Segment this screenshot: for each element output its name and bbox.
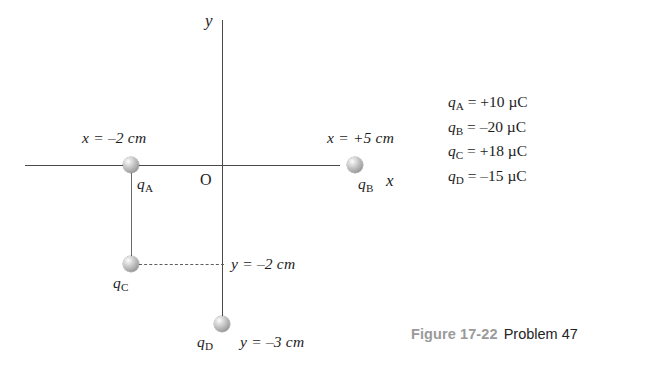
charge-sphere-qc	[123, 256, 139, 272]
figure-problem-label: Problem 47	[504, 326, 578, 342]
legend-row-qd: qD = –15 µC	[448, 166, 528, 191]
legend-qa-symbol: q	[448, 93, 456, 110]
charge-sphere-qb	[347, 157, 363, 173]
position-label-qa: x = –2 cm	[82, 130, 146, 146]
figure-caption: Figure 17-22Problem 47	[411, 327, 578, 342]
x-axis-line	[25, 165, 340, 166]
legend-qa-sub: A	[456, 100, 464, 112]
legend-row-qa: qA = +10 µC	[448, 92, 528, 117]
origin-label: O	[200, 172, 212, 188]
legend-qb-value: = –20 µC	[463, 118, 526, 135]
charge-label-qd-sub: D	[205, 340, 213, 352]
position-label-qd-text: y = –3 cm	[240, 333, 304, 350]
legend-qb-symbol: q	[448, 118, 456, 135]
connector-qc-to-y-axis	[139, 264, 224, 265]
charge-label-qb-sub: B	[366, 182, 373, 194]
legend-qa-value: = +10 µC	[464, 93, 528, 110]
charge-sphere-qa	[123, 157, 139, 173]
position-label-qb-text: x = +5 cm	[327, 129, 394, 146]
legend-qd-sub: D	[456, 174, 464, 186]
charge-label-qa-sub: A	[145, 182, 153, 194]
charge-label-qa-symbol: q	[137, 175, 145, 192]
charge-label-qd-symbol: q	[197, 333, 205, 350]
position-label-qa-text: x = –2 cm	[82, 129, 146, 146]
legend-qc-value: = +18 µC	[463, 142, 527, 159]
legend-qc-symbol: q	[448, 142, 456, 159]
charge-label-qa: qA	[137, 176, 153, 194]
position-label-qd: y = –3 cm	[240, 334, 304, 350]
legend-qd-value: = –15 µC	[464, 167, 527, 184]
position-label-qb: x = +5 cm	[327, 130, 394, 146]
position-label-qc-text: y = –2 cm	[231, 255, 295, 272]
charge-label-qc-sub: C	[121, 281, 128, 293]
figure-number: Figure 17-22	[411, 326, 498, 342]
x-axis-label: x	[386, 172, 394, 189]
charge-label-qc: qC	[113, 275, 128, 293]
charge-label-qd: qD	[197, 334, 213, 352]
charge-value-legend: qA = +10 µC qB = –20 µC qC = +18 µC qD =…	[448, 92, 528, 190]
legend-row-qc: qC = +18 µC	[448, 141, 528, 166]
figure-17-22: y x O x = –2 cm x = +5 cm y = –2 cm y = …	[0, 0, 648, 371]
position-label-qc: y = –2 cm	[231, 256, 295, 272]
legend-qd-symbol: q	[448, 167, 456, 184]
charge-label-qb-symbol: q	[358, 175, 366, 192]
charge-label-qc-symbol: q	[113, 274, 121, 291]
y-axis-label: y	[205, 12, 213, 29]
charge-label-qb: qB	[358, 176, 373, 194]
connector-qa-to-qc	[131, 165, 132, 265]
legend-row-qb: qB = –20 µC	[448, 117, 528, 142]
charge-sphere-qd	[214, 316, 230, 332]
y-axis-line	[222, 20, 223, 326]
